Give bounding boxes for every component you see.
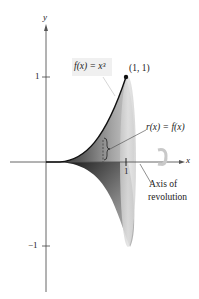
- point-label: (1, 1): [129, 64, 150, 74]
- y-axis-arrow-icon: [44, 24, 48, 31]
- fx-leader-line: [103, 77, 115, 96]
- axis-of-revolution-label-2: revolution: [148, 193, 187, 203]
- point-1-1: [124, 75, 128, 79]
- x-axis-label: x: [186, 156, 190, 165]
- solid-of-revolution-figure: [0, 0, 199, 299]
- x-axis-arrow-icon: [179, 160, 185, 164]
- y-tick-label-1: 1: [35, 72, 40, 81]
- function-label: f(x) = x³: [74, 62, 105, 72]
- axis-of-revolution-label-1: Axis of: [149, 180, 177, 190]
- y-tick-label-neg1: −1: [28, 241, 38, 250]
- x-tick-label-1: 1: [124, 167, 129, 176]
- y-axis-label: y: [43, 13, 47, 22]
- radius-label: r(x) = f(x): [146, 123, 185, 133]
